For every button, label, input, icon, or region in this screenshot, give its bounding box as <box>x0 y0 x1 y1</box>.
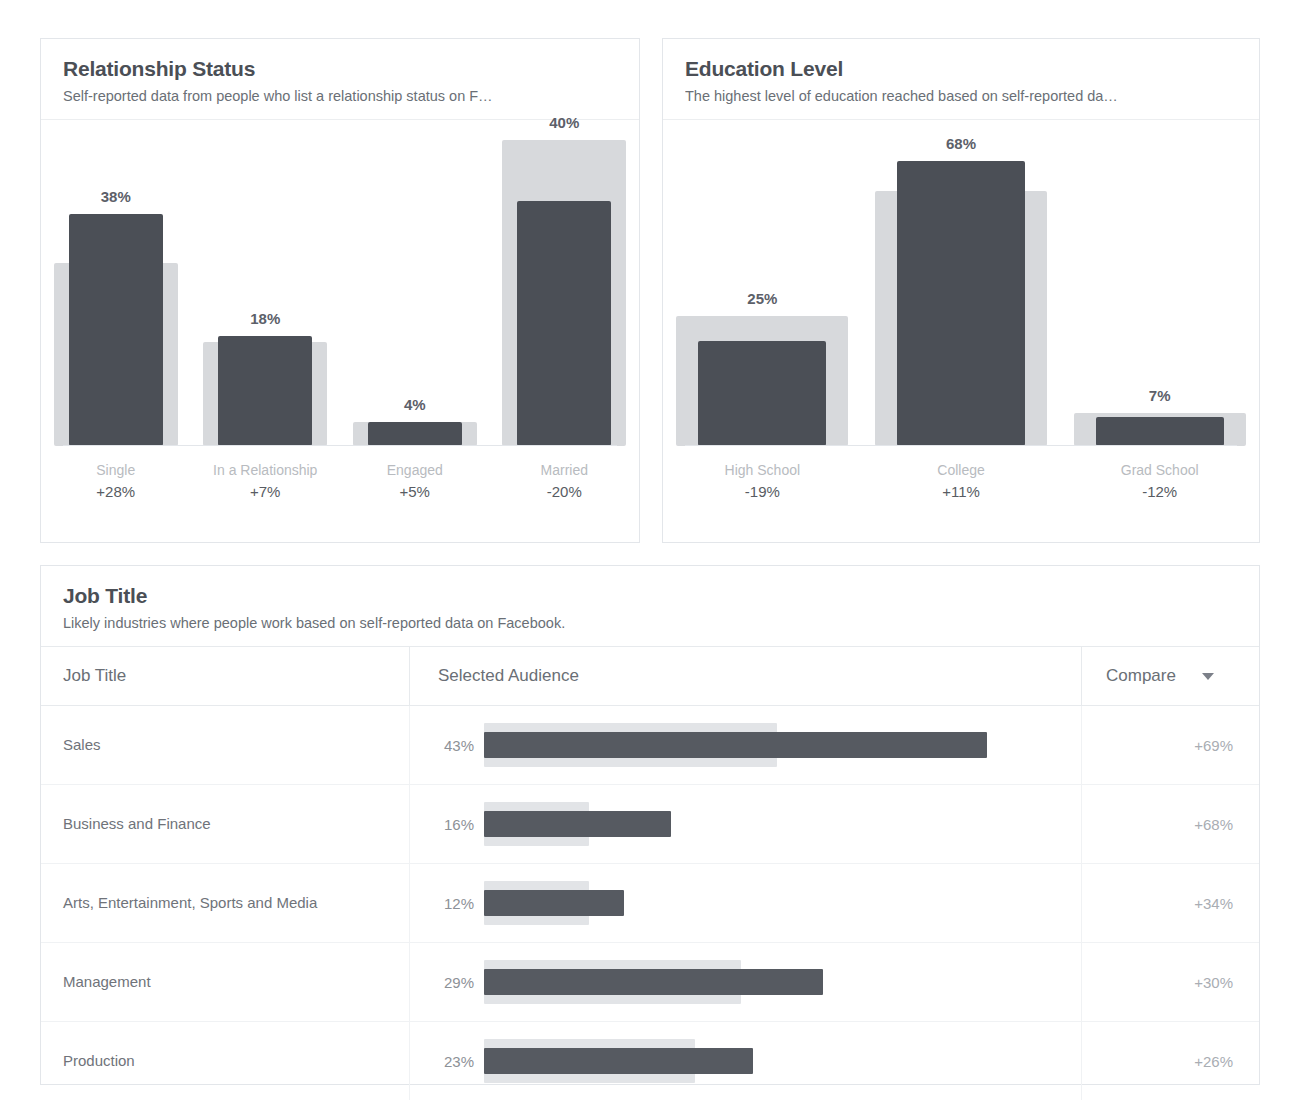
chart-plot-area: 38%18%4%40% <box>41 128 639 446</box>
chart-compare-value: -20% <box>490 481 640 504</box>
education-level-card: Education Level The highest level of edu… <box>662 38 1260 543</box>
cell-compare-value: +26% <box>1081 1022 1259 1100</box>
chart-bar-selected <box>368 422 462 446</box>
chart-bar-group[interactable]: 7% <box>1060 128 1259 446</box>
chart-plot-area: 25%68%7% <box>663 128 1259 446</box>
cell-compare-value: +34% <box>1081 864 1259 942</box>
card-header: Relationship Status Self-reported data f… <box>41 39 639 120</box>
caret-down-icon[interactable] <box>1202 673 1214 680</box>
chart-bar-selected <box>698 341 826 446</box>
chart-category-name: College <box>862 460 1061 481</box>
page-title-education: Education Level <box>685 57 1237 80</box>
cell-job-title: Arts, Entertainment, Sports and Media <box>41 864 409 942</box>
chart-bar-stack: 40% <box>490 128 640 446</box>
chart-compare-value: +11% <box>862 481 1061 504</box>
bar-track <box>484 722 1069 768</box>
bar-selected <box>484 732 987 758</box>
cell-job-title: Management <box>41 943 409 1021</box>
column-header-compare[interactable]: Compare <box>1081 647 1259 705</box>
card-subtitle-education: The highest level of education reached b… <box>685 87 1237 105</box>
bar-selected <box>484 811 671 837</box>
table-row[interactable]: Sales43%+69% <box>41 706 1259 785</box>
column-header-job-title[interactable]: Job Title <box>41 666 409 686</box>
cell-selected-audience: 43% <box>409 706 1081 784</box>
chart-category-label: High School-19% <box>663 452 862 510</box>
chart-compare-value: -12% <box>1060 481 1259 504</box>
chart-value-label: 40% <box>549 114 579 131</box>
card-header: Job Title Likely industries where people… <box>41 566 1259 646</box>
bar-track <box>484 801 1069 847</box>
chart-category-name: High School <box>663 460 862 481</box>
chart-value-label: 4% <box>404 396 426 413</box>
cell-job-title: Production <box>41 1022 409 1100</box>
chart-value-label: 25% <box>747 290 777 307</box>
chart-category-name: Engaged <box>340 460 490 481</box>
cell-compare-value: +68% <box>1081 785 1259 863</box>
chart-category-label: College+11% <box>862 452 1061 510</box>
table-row[interactable]: Production23%+26% <box>41 1022 1259 1100</box>
cell-compare-value: +30% <box>1081 943 1259 1021</box>
cell-compare-value: +69% <box>1081 706 1259 784</box>
chart-bar-group[interactable]: 40% <box>490 128 640 446</box>
card-header: Education Level The highest level of edu… <box>663 39 1259 120</box>
page-title-relationship: Relationship Status <box>63 57 617 80</box>
chart-value-label: 68% <box>946 135 976 152</box>
chart-category-label: Engaged+5% <box>340 452 490 510</box>
relationship-status-card: Relationship Status Self-reported data f… <box>40 38 640 543</box>
chart-category-name: Married <box>490 460 640 481</box>
table-body: Sales43%+69%Business and Finance16%+68%A… <box>41 706 1259 1100</box>
page-title-jobtitle: Job Title <box>63 584 1237 607</box>
bar-track <box>484 880 1069 926</box>
chart-category-name: Grad School <box>1060 460 1259 481</box>
cell-selected-percent: 23% <box>428 1053 474 1070</box>
table-row[interactable]: Management29%+30% <box>41 943 1259 1022</box>
chart-category-label: Married-20% <box>490 452 640 510</box>
cell-selected-audience: 29% <box>409 943 1081 1021</box>
chart-bar-stack: 38% <box>41 128 191 446</box>
chart-bar-stack: 68% <box>862 128 1061 446</box>
chart-bar-selected <box>69 214 163 446</box>
chart-category-name: Single <box>41 460 191 481</box>
education-level-chart: 25%68%7% High School-19%College+11%Grad … <box>663 120 1259 518</box>
bar-selected <box>484 1048 753 1074</box>
chart-compare-value: -19% <box>663 481 862 504</box>
chart-compare-value: +28% <box>41 481 191 504</box>
clipped-top-text: ........................................… <box>400 0 880 6</box>
table-row[interactable]: Arts, Entertainment, Sports and Media12%… <box>41 864 1259 943</box>
chart-bar-stack: 18% <box>191 128 341 446</box>
job-title-table: Job Title Selected Audience Compare Sale… <box>41 646 1259 1100</box>
job-title-card: Job Title Likely industries where people… <box>40 565 1260 1085</box>
chart-bar-group[interactable]: 4% <box>340 128 490 446</box>
chart-value-label: 7% <box>1149 387 1171 404</box>
card-subtitle-jobtitle: Likely industries where people work base… <box>63 614 1237 632</box>
chart-compare-value: +5% <box>340 481 490 504</box>
chart-compare-value: +7% <box>191 481 341 504</box>
cell-selected-percent: 29% <box>428 974 474 991</box>
chart-bar-group[interactable]: 25% <box>663 128 862 446</box>
chart-category-label: Grad School-12% <box>1060 452 1259 510</box>
chart-value-label: 18% <box>250 310 280 327</box>
chart-category-labels: Single+28%In a Relationship+7%Engaged+5%… <box>41 452 639 510</box>
chart-bar-stack: 25% <box>663 128 862 446</box>
chart-bar-stack: 4% <box>340 128 490 446</box>
card-subtitle-relationship: Self-reported data from people who list … <box>63 87 617 105</box>
cell-selected-percent: 43% <box>428 737 474 754</box>
chart-category-label: In a Relationship+7% <box>191 452 341 510</box>
chart-bar-group[interactable]: 18% <box>191 128 341 446</box>
column-header-selected-audience[interactable]: Selected Audience <box>409 647 1081 705</box>
cell-selected-percent: 16% <box>428 816 474 833</box>
table-row[interactable]: Business and Finance16%+68% <box>41 785 1259 864</box>
table-header-row: Job Title Selected Audience Compare <box>41 646 1259 706</box>
chart-category-labels: High School-19%College+11%Grad School-12… <box>663 452 1259 510</box>
chart-bar-stack: 7% <box>1060 128 1259 446</box>
chart-baseline <box>685 445 1237 446</box>
cell-selected-audience: 23% <box>409 1022 1081 1100</box>
bar-track <box>484 959 1069 1005</box>
cell-job-title: Sales <box>41 706 409 784</box>
chart-bar-selected <box>897 161 1025 446</box>
chart-category-name: In a Relationship <box>191 460 341 481</box>
bar-track <box>484 1038 1069 1084</box>
chart-bar-group[interactable]: 38% <box>41 128 191 446</box>
cell-selected-audience: 16% <box>409 785 1081 863</box>
chart-bar-group[interactable]: 68% <box>862 128 1061 446</box>
